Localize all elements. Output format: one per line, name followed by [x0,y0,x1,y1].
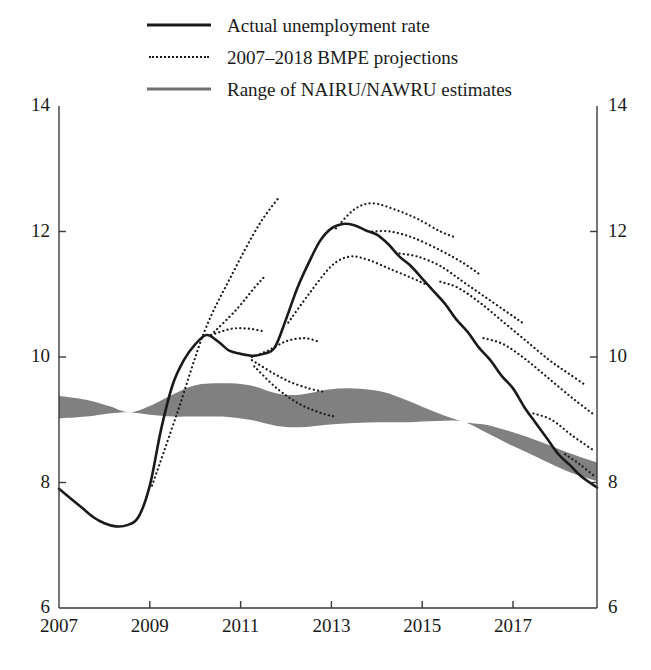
projection-line-2013 [336,203,456,238]
x-axis-tick-2007: 2007 [14,616,104,635]
nairu-band [59,383,597,481]
y-axis-tick-left-14: 14 [8,95,50,114]
x-axis-tick-2009: 2009 [105,616,195,635]
y-axis-tick-right-6: 6 [608,597,650,616]
y-axis-tick-right-12: 12 [608,221,650,240]
projection-line-2010b [211,328,265,335]
y-axis-tick-left-10: 10 [8,346,50,365]
axis-frame [59,106,597,608]
x-axis-tick-2013: 2013 [286,616,376,635]
x-axis-tick-2017: 2017 [468,616,558,635]
projection-line-2010 [211,275,265,335]
projection-line-2015 [440,282,585,386]
y-axis-tick-left-6: 6 [8,597,50,616]
projection-line-2016 [484,338,593,413]
actual-line [59,224,597,527]
x-axis-tick-2011: 2011 [196,616,286,635]
y-axis-tick-right-14: 14 [608,95,650,114]
projection-line-2014 [400,253,523,322]
projection-line-2012 [288,256,426,322]
plot-area [0,0,651,670]
y-axis-tick-right-8: 8 [608,472,650,491]
y-axis-tick-right-10: 10 [608,346,650,365]
y-axis-tick-left-8: 8 [8,472,50,491]
y-axis-tick-left-12: 12 [8,221,50,240]
unemployment-chart: Actual unemployment rate 2007–2018 BMPE … [0,0,651,670]
projection-line-2009 [152,197,279,486]
x-axis-tick-2015: 2015 [377,616,467,635]
